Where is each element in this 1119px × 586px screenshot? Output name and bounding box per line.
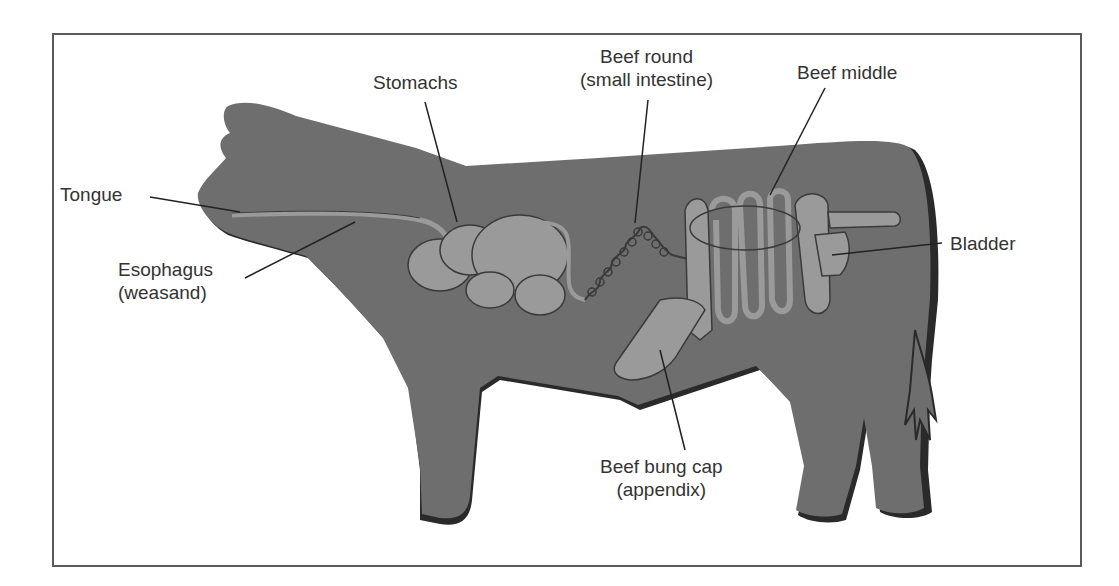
label-bung-cap: Beef bung cap (appendix): [600, 455, 723, 501]
label-esophagus-line2: (weasand): [118, 281, 213, 304]
label-bung-cap-line2: (appendix): [600, 478, 723, 501]
label-beef-round-line1: Beef round: [580, 45, 713, 68]
label-esophagus-line1: Esophagus: [118, 258, 213, 281]
label-stomachs: Stomachs: [373, 71, 457, 94]
label-bung-cap-line1: Beef bung cap: [600, 455, 723, 478]
label-beef-round-line2: (small intestine): [580, 68, 713, 91]
label-beef-middle: Beef middle: [797, 61, 897, 84]
label-beef-round: Beef round (small intestine): [580, 45, 713, 91]
label-esophagus: Esophagus (weasand): [118, 258, 213, 304]
label-bladder: Bladder: [950, 232, 1016, 255]
label-tongue: Tongue: [60, 183, 122, 206]
